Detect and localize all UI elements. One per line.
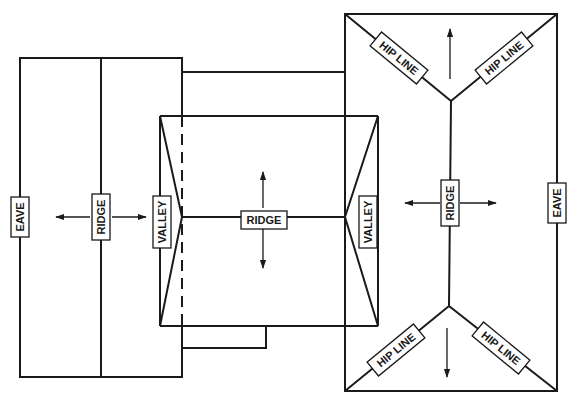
label-hip-top-right: HIP LINE	[475, 32, 533, 84]
label-hip-bottom-left: HIP LINE	[367, 324, 425, 376]
svg-text:RIDGE: RIDGE	[247, 214, 282, 226]
label-right-ridge: RIDGE	[441, 180, 459, 226]
label-left-ridge: RIDGE	[92, 194, 110, 240]
bottom-connector	[182, 326, 266, 348]
top-hip-lines	[345, 14, 557, 101]
label-center-ridge: RIDGE	[241, 211, 287, 229]
label-center-valley-right: VALLEY	[359, 196, 377, 248]
label-left-eave: EAVE	[11, 197, 29, 237]
label-hip-bottom-right: HIP LINE	[472, 322, 530, 374]
label-center-valley-left: VALLEY	[153, 196, 171, 248]
label-hip-top-left: HIP LINE	[370, 32, 428, 84]
label-right-eave: EAVE	[548, 183, 566, 223]
roof-plan-diagram: EAVE RIDGE VALLEY RIDGE VALLEY RIDGE EAV…	[0, 0, 575, 404]
svg-text:EAVE: EAVE	[551, 188, 563, 217]
svg-text:VALLEY: VALLEY	[156, 200, 168, 243]
svg-text:RIDGE: RIDGE	[95, 200, 107, 235]
connectors	[182, 72, 345, 348]
svg-text:RIDGE: RIDGE	[444, 186, 456, 221]
svg-text:EAVE: EAVE	[14, 202, 26, 231]
svg-text:VALLEY: VALLEY	[362, 200, 374, 243]
